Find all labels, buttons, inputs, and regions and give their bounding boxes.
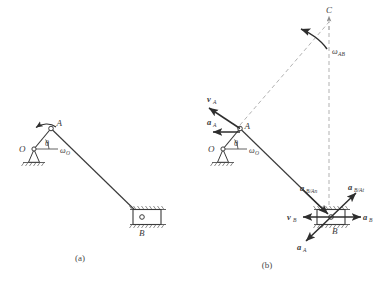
label-vector-v-B: v B [287,212,297,223]
svg-text:O: O [66,150,70,156]
svg-text:A: A [212,99,217,105]
svg-text:a: a [297,242,302,252]
pin-O-b [221,147,225,151]
svg-text:a: a [207,117,212,127]
caption-panel-b: (b) [262,260,273,270]
panel-b: O A B C θ ω O ω AB v A a A v B a B a [207,5,373,270]
svg-text:B: B [369,217,373,223]
svg-text:O: O [255,150,259,156]
pin-O-a [32,147,36,151]
label-point-O-a: O [19,144,26,154]
slider-block-B-a [130,206,167,228]
rod-AB-a [51,129,142,218]
svg-text:a: a [363,212,368,222]
label-vector-a-A-at-B: a A [297,242,307,253]
svg-text:B/An: B/An [306,188,317,194]
svg-text:v: v [287,212,291,222]
label-point-B-b: B [332,226,338,236]
svg-text:v: v [207,94,211,104]
label-point-C-b: C [326,5,333,15]
label-vector-a-BA-t: a B/At [348,182,364,193]
label-vector-v-A: v A [207,94,217,105]
svg-text:AB: AB [337,51,345,57]
svg-text:B: B [293,217,297,223]
label-vector-a-BA-n: a B/An [300,183,317,194]
svg-text:a: a [348,182,353,192]
label-point-A-a: A [56,118,63,128]
label-angle-theta-b: θ [234,139,238,148]
svg-text:A: A [302,247,307,253]
label-angle-theta-a: θ [45,139,49,148]
caption-panel-a: (a) [75,253,85,263]
label-vector-a-A-at-A: a A [207,117,217,128]
panel-a: O A B θ ω O (a) [19,118,166,263]
label-omega-AB: ω AB [332,47,345,57]
label-point-A-b: A [244,121,251,131]
label-point-B-a: B [139,228,145,238]
label-omega-O-b: ω O [249,146,259,156]
label-vector-a-B: a B [363,212,373,223]
svg-text:B/At: B/At [354,187,364,193]
pin-A-a [49,126,54,131]
label-omega-O-a: ω O [60,146,70,156]
svg-text:A: A [212,122,217,128]
mechanism-figure: O A B θ ω O (a) [0,0,382,283]
label-point-O-b: O [208,144,215,154]
